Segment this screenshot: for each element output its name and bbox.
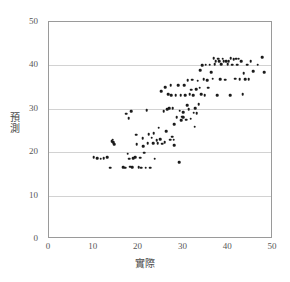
data-point — [246, 63, 249, 66]
x-tick-30: 30 — [167, 242, 197, 251]
data-point — [227, 60, 230, 63]
data-point — [193, 125, 196, 128]
data-point — [149, 167, 152, 170]
y-tick-50: 50 — [0, 17, 38, 26]
data-point — [204, 94, 207, 97]
x-axis-title: 實際 — [0, 258, 290, 269]
data-point — [178, 161, 181, 164]
data-point — [131, 166, 134, 169]
data-point — [211, 78, 214, 81]
data-point — [152, 142, 155, 145]
data-point — [202, 78, 205, 81]
data-point — [252, 70, 255, 73]
x-tick-10: 10 — [78, 242, 108, 251]
data-point — [183, 84, 186, 87]
data-point — [182, 111, 185, 114]
data-point — [209, 63, 212, 66]
data-point — [240, 60, 243, 63]
data-point — [220, 63, 223, 66]
data-point — [210, 71, 213, 74]
x-tick-20: 20 — [123, 242, 153, 251]
data-point — [159, 138, 162, 141]
data-point — [188, 93, 191, 96]
data-point — [216, 94, 219, 97]
plot-area — [48, 21, 272, 238]
data-point — [125, 112, 128, 115]
data-point — [173, 123, 176, 126]
data-point — [187, 108, 190, 111]
data-point — [205, 63, 208, 66]
y-axis-title: 預測 — [8, 112, 19, 134]
data-point — [189, 117, 192, 120]
data-point — [169, 138, 172, 141]
data-point — [127, 152, 130, 155]
data-point — [157, 142, 160, 145]
data-point — [168, 107, 171, 110]
data-point — [234, 78, 237, 81]
data-point — [153, 132, 156, 135]
data-point — [93, 156, 96, 159]
data-point — [175, 116, 178, 119]
data-point — [160, 90, 163, 93]
data-point — [256, 63, 259, 66]
data-point — [136, 143, 139, 146]
data-point — [174, 94, 177, 97]
data-point — [200, 93, 203, 96]
data-point — [150, 137, 153, 140]
data-point — [263, 71, 266, 74]
data-point — [201, 64, 204, 67]
data-point — [134, 156, 137, 159]
data-point — [213, 63, 216, 66]
data-point — [148, 133, 151, 136]
data-point — [197, 103, 200, 106]
data-point — [162, 110, 165, 113]
data-point — [243, 72, 246, 75]
data-point — [128, 157, 131, 160]
data-point — [102, 157, 105, 160]
data-point — [186, 104, 189, 107]
data-point — [127, 117, 130, 120]
y-tick-30: 30 — [0, 103, 38, 112]
data-point — [239, 78, 242, 81]
data-point — [130, 110, 133, 113]
data-point — [163, 141, 166, 144]
data-point — [261, 56, 264, 59]
scatter-chart-figure: 預測 01020304050 01020304050 實際 — [0, 0, 290, 282]
x-tick-0: 0 — [33, 242, 63, 251]
data-point — [241, 93, 244, 96]
data-point — [236, 63, 239, 66]
gridline-y-10 — [49, 196, 271, 197]
data-point — [194, 107, 197, 110]
data-point — [187, 79, 190, 82]
y-tick-10: 10 — [0, 190, 38, 199]
y-tick-20: 20 — [0, 147, 38, 156]
data-point — [192, 94, 195, 97]
data-point — [198, 86, 201, 89]
data-point — [165, 130, 168, 133]
data-point — [249, 60, 252, 63]
data-point — [170, 84, 173, 87]
data-point — [196, 112, 199, 115]
data-point — [135, 134, 138, 137]
data-point — [199, 69, 202, 72]
data-point — [164, 86, 167, 89]
data-point — [229, 94, 232, 97]
data-point — [153, 157, 156, 160]
data-point — [145, 109, 148, 112]
data-point — [173, 144, 176, 147]
data-point — [109, 167, 112, 170]
data-point — [170, 94, 173, 97]
data-point — [172, 138, 175, 141]
data-point — [206, 79, 209, 82]
data-point — [141, 137, 144, 140]
data-point — [226, 63, 229, 66]
x-tick-40: 40 — [212, 242, 242, 251]
data-point — [106, 156, 109, 159]
data-point — [207, 86, 210, 89]
data-point — [185, 118, 188, 121]
data-point — [113, 143, 116, 146]
data-point — [248, 78, 251, 81]
data-point — [124, 167, 127, 170]
data-point — [191, 78, 194, 81]
x-tick-50: 50 — [257, 242, 287, 251]
